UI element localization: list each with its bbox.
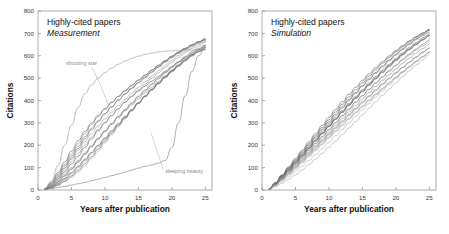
panel-title: Highly-cited papers: [47, 17, 121, 27]
panel-subtitle: Simulation: [271, 28, 311, 38]
panel-measurement: 01002003004005006007008000510152025Years…: [0, 0, 224, 234]
y-tick-label: 800: [24, 7, 35, 14]
y-tick-label: 200: [248, 141, 259, 148]
y-tick-label: 700: [248, 30, 259, 37]
y-tick-label: 500: [24, 74, 35, 81]
annotation-leader: [92, 68, 108, 105]
x-tick-label: 10: [101, 194, 108, 201]
curve-sim-04: [269, 48, 430, 189]
y-tick-label: 0: [255, 186, 259, 193]
x-tick-label: 20: [392, 194, 399, 201]
y-axis-title: Citations: [229, 82, 239, 118]
x-tick-label: 25: [202, 194, 209, 201]
panel-title: Highly-cited papers: [271, 17, 345, 27]
x-axis-title: Years after publication: [304, 204, 394, 214]
y-tick-label: 300: [24, 119, 35, 126]
y-tick-label: 600: [24, 52, 35, 59]
y-tick-label: 300: [248, 119, 259, 126]
annotation-shooting-star: shooting star: [66, 60, 97, 66]
x-tick-label: 25: [426, 194, 433, 201]
annotation-leader: [151, 133, 163, 169]
x-tick-label: 15: [359, 194, 366, 201]
y-tick-label: 200: [24, 141, 35, 148]
y-tick-label: 800: [248, 7, 259, 14]
chart-simulation: 01002003004005006007008000510152025Years…: [224, 0, 448, 234]
y-tick-label: 700: [24, 30, 35, 37]
y-tick-label: 400: [24, 97, 35, 104]
y-tick-label: 600: [248, 52, 259, 59]
y-tick-label: 400: [248, 97, 259, 104]
x-tick-label: 15: [135, 194, 142, 201]
annotation-sleeping-beauty: sleeping beauty: [165, 168, 203, 174]
panel-subtitle: Measurement: [47, 28, 100, 38]
x-axis-title: Years after publication: [80, 204, 170, 214]
x-tick-label: 5: [294, 194, 298, 201]
y-tick-label: 0: [31, 186, 35, 193]
x-tick-label: 20: [168, 194, 175, 201]
y-axis-title: Citations: [5, 82, 15, 118]
x-tick-label: 10: [325, 194, 332, 201]
y-tick-label: 500: [248, 74, 259, 81]
chart-measurement: 01002003004005006007008000510152025Years…: [0, 0, 224, 234]
x-tick-label: 5: [70, 194, 74, 201]
x-tick-label: 0: [36, 194, 40, 201]
x-tick-label: 0: [260, 194, 264, 201]
y-tick-label: 100: [248, 164, 259, 171]
citation-curves-figure: 01002003004005006007008000510152025Years…: [0, 0, 449, 234]
y-tick-label: 100: [24, 164, 35, 171]
panel-simulation: 01002003004005006007008000510152025Years…: [224, 0, 448, 234]
